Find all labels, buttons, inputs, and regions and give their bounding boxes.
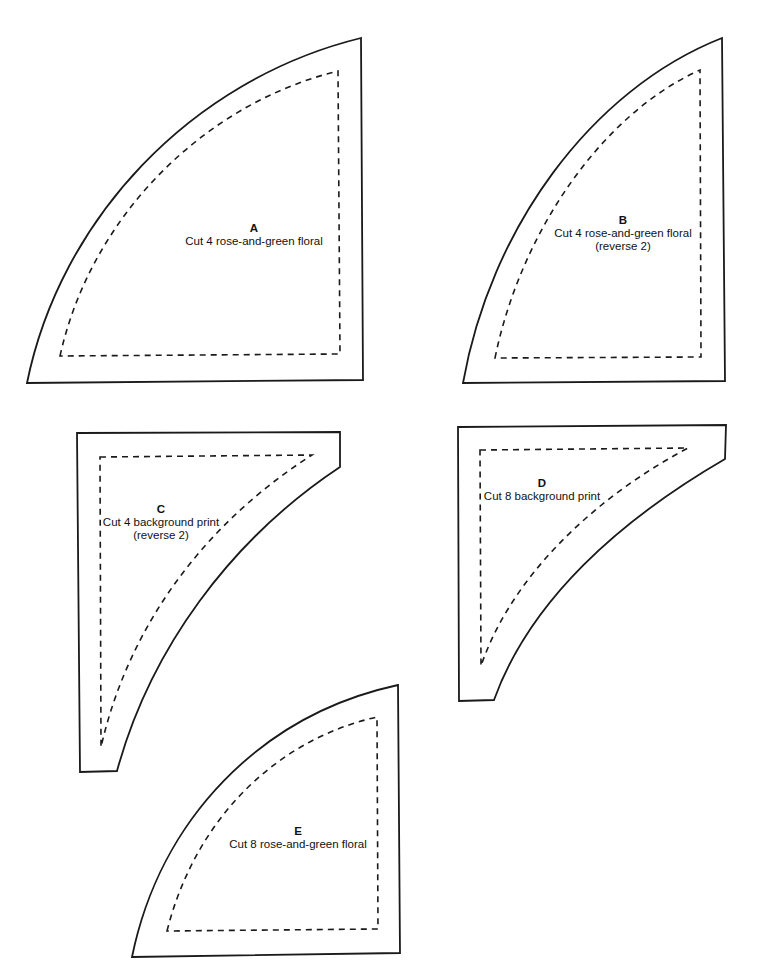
piece-e-letter: E: [229, 825, 366, 838]
piece-a-instruction: Cut 4 rose-and-green floral: [185, 235, 322, 248]
piece-e-label: E Cut 8 rose-and-green floral: [229, 825, 366, 851]
piece-a-cut-line: [27, 38, 363, 383]
piece-e-cut-line: [132, 685, 400, 957]
piece-d-label: D Cut 8 background print: [484, 477, 600, 503]
piece-b-cut-line: [463, 38, 725, 383]
piece-c-letter: C: [103, 503, 219, 516]
piece-a-label: A Cut 4 rose-and-green floral: [185, 222, 322, 248]
piece-b-label: B Cut 4 rose-and-green floral (reverse 2…: [554, 214, 691, 253]
piece-b-note: (reverse 2): [554, 240, 691, 253]
piece-b-instruction: Cut 4 rose-and-green floral: [554, 227, 691, 240]
piece-b-letter: B: [554, 214, 691, 227]
piece-e-instruction: Cut 8 rose-and-green floral: [229, 838, 366, 851]
piece-b-template: [463, 38, 725, 383]
piece-d-template: [458, 425, 726, 701]
piece-c-note: (reverse 2): [103, 529, 219, 542]
piece-d-cut-line: [458, 425, 726, 701]
piece-c-instruction: Cut 4 background print: [103, 516, 219, 529]
piece-a-letter: A: [185, 222, 322, 235]
piece-a-template: [27, 38, 363, 383]
piece-d-instruction: Cut 8 background print: [484, 490, 600, 503]
piece-e-template: [132, 685, 400, 957]
piece-c-label: C Cut 4 background print (reverse 2): [103, 503, 219, 542]
piece-d-letter: D: [484, 477, 600, 490]
pattern-canvas: [0, 0, 761, 978]
